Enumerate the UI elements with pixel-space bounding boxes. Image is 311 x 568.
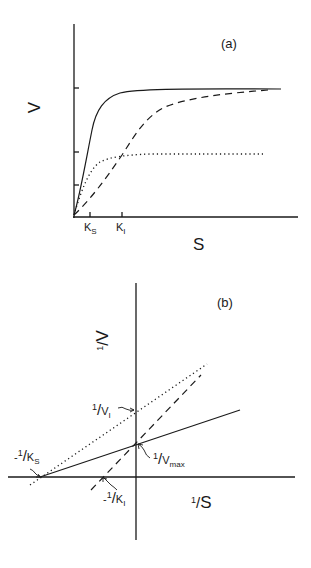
tick-ks-sub: S — [91, 227, 96, 236]
curve-a-dotted — [74, 154, 264, 215]
line-b-solid — [40, 410, 240, 477]
panel-a-tag: (a) — [221, 37, 237, 50]
panel-a-axes — [73, 24, 298, 218]
line-b-dashed — [91, 375, 201, 490]
tick-label-ki: KI — [116, 222, 126, 233]
panel-b-x-num: 1 — [191, 495, 196, 505]
annotation-neg-1-over-ks: -1/KS — [14, 448, 40, 463]
panel-b-tag: (b) — [217, 296, 233, 309]
annotation-neg-1-over-ki: -1/KI — [103, 490, 125, 505]
annotation-1-over-vmax: 1/Vmax — [153, 451, 185, 466]
figure-canvas — [0, 0, 311, 568]
annotation-1-over-vi: 1/VI — [92, 402, 111, 417]
panel-b-y-axis-label: 1/V — [94, 330, 111, 351]
panel-a-y-axis-label: V — [26, 102, 43, 113]
tick-ki-sub: I — [123, 227, 125, 236]
curve-a-dashed — [74, 90, 268, 215]
panel-a-x-axis-label: S — [193, 236, 204, 253]
panel-b-y-num: 1 — [95, 346, 105, 351]
panel-b-x-axis-label: 1/S — [191, 494, 212, 511]
panel-b-axes — [8, 283, 295, 540]
tick-label-ks: KS — [84, 222, 97, 233]
panel-b-y-den: V — [93, 330, 112, 341]
panel-b-x-den: S — [200, 493, 211, 512]
curve-a-solid — [74, 89, 281, 215]
